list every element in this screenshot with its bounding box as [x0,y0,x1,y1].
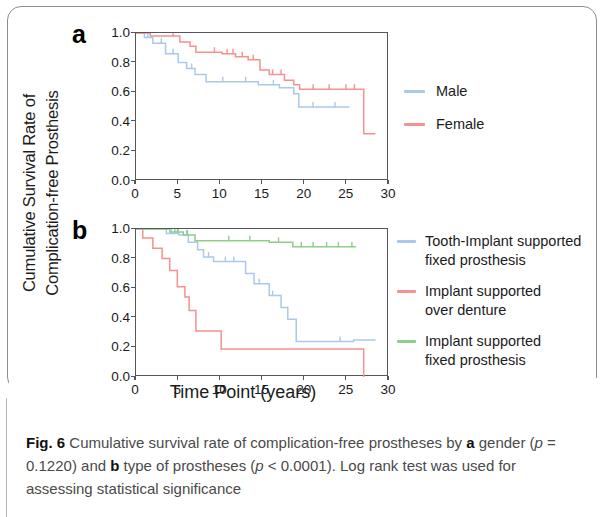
y-tick-mark [131,346,135,347]
y-tick-mark [131,316,135,317]
x-tick-label: 30 [375,186,401,201]
x-tick-mark [177,376,178,380]
x-tick-mark [134,376,135,380]
y-tick-mark [131,228,135,229]
legend-color-swatch [397,240,416,243]
survival-curve [136,229,376,341]
figure-root: Cumulative Survival Rate of Complication… [0,0,604,517]
y-tick-label: 1.0 [88,25,130,40]
y-tick-mark [131,61,135,62]
x-tick-mark [261,180,262,184]
x-tick-mark [303,376,304,380]
caption-italic-p-1: p [535,434,543,451]
plot-area-b [135,228,388,376]
y-tick-label: 0.8 [88,250,130,265]
y-tick-label: 0.8 [88,54,130,69]
legend-panel-b: Tooth-Implant supportedfixed prosthesisI… [397,232,602,382]
x-tick-mark [261,376,262,380]
legend-label: Female [436,115,484,134]
figure-number: Fig. 6 [26,434,69,451]
x-tick-label: 0 [122,186,148,201]
page-edge-artifact [6,398,7,517]
y-tick-mark [131,257,135,258]
chart-panel-a: 0.00.20.40.60.81.0 051015202530 [88,22,398,202]
y-tick-mark [131,150,135,151]
panel-a-label: a [72,22,86,47]
legend-a-item: Female [404,115,594,134]
survival-curve [136,33,376,134]
x-tick-mark [345,376,346,380]
plot-curves-a [136,33,389,181]
legend-label-line2: fixed prosthesis [425,251,581,270]
x-tick-mark [219,376,220,380]
x-tick-mark [177,180,178,184]
survival-curve [136,33,349,107]
x-tick-label: 15 [249,186,275,201]
plot-area-a [135,32,388,180]
y-tick-mark [131,287,135,288]
legend-label: Implant supportedfixed prosthesis [425,332,541,371]
legend-a-item: Male [404,82,594,101]
legend-color-swatch [397,290,416,293]
figure-caption: Fig. 6 Cumulative survival rate of compl… [26,432,582,501]
x-tick-label: 20 [291,186,317,201]
x-tick-mark [345,180,346,184]
legend-b-item: Tooth-Implant supportedfixed prosthesis [397,232,602,271]
legend-color-swatch [404,90,425,93]
legend-color-swatch [404,123,425,126]
y-tick-label: 0.4 [88,309,130,324]
chart-panel-b: 0.00.20.40.60.81.0 051015202530 [88,218,398,398]
caption-part-4: type of prostheses ( [119,457,255,474]
caption-italic-p-2: p [255,457,263,474]
y-tick-label: 0.6 [88,280,130,295]
y-axis-title-line1: Cumulative Survival Rate of [18,3,41,383]
y-tick-label: 0.6 [88,84,130,99]
y-tick-mark [131,120,135,121]
legend-label: Implant supportedover denture [425,282,541,321]
y-tick-mark [131,32,135,33]
y-axis-title: Cumulative Survival Rate of Complication… [18,3,80,383]
y-tick-label: 0.4 [88,113,130,128]
y-tick-label: 0.2 [88,339,130,354]
legend-color-swatch [397,340,416,343]
x-tick-mark [387,180,388,184]
caption-bold-a: a [466,434,474,451]
y-axis-title-line2: Complication-free Prosthesis [41,3,64,383]
x-tick-mark [219,180,220,184]
legend-b-item: Implant supportedover denture [397,282,602,321]
x-tick-mark [134,180,135,184]
legend-label: Tooth-Implant supportedfixed prosthesis [425,232,581,271]
legend-panel-a: MaleFemale [404,82,594,149]
legend-label-line2: fixed prosthesis [425,351,541,370]
x-tick-mark [387,376,388,380]
x-axis-title: Time Point (years) [88,382,398,403]
caption-part-1: Cumulative survival rate of complication… [69,434,466,451]
caption-part-2: gender ( [475,434,535,451]
x-tick-label: 5 [164,186,190,201]
legend-label-line2: over denture [425,301,541,320]
x-tick-mark [303,180,304,184]
y-tick-label: 0.2 [88,143,130,158]
y-tick-label: 1.0 [88,221,130,236]
x-tick-label: 25 [333,186,359,201]
panel-b-label: b [72,218,87,243]
plot-curves-b [136,229,389,377]
legend-label: Male [436,82,467,101]
x-tick-label: 10 [206,186,232,201]
survival-curve [136,229,364,377]
survival-curve [136,229,356,247]
legend-b-item: Implant supportedfixed prosthesis [397,332,602,371]
y-tick-mark [131,91,135,92]
